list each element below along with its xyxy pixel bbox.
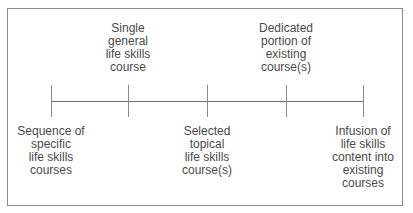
- label-dedicated-portion: Dedicated portion of existing course(s): [231, 22, 341, 74]
- tick-2: [128, 85, 129, 117]
- label-line: course(s): [152, 164, 262, 177]
- label-selected-topical-courses: Selected topical life skills course(s): [152, 125, 262, 177]
- label-line: course(s): [231, 61, 341, 74]
- label-infusion-into-courses: Infusion of life skills content into exi…: [308, 125, 413, 190]
- label-line: courses: [308, 177, 413, 190]
- tick-5: [363, 85, 364, 117]
- label-line: courses: [0, 164, 106, 177]
- tick-1: [51, 85, 52, 117]
- label-single-general-course: Single general life skills course: [73, 22, 183, 74]
- label-line: course: [73, 61, 183, 74]
- tick-4: [286, 85, 287, 117]
- label-sequence-of-courses: Sequence of specific life skills courses: [0, 125, 106, 177]
- tick-3: [207, 85, 208, 117]
